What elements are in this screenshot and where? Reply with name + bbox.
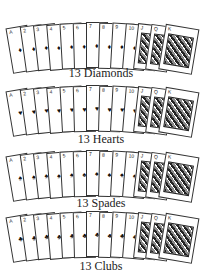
card-rank: K — [168, 215, 172, 220]
face-card-art — [163, 96, 194, 131]
card-rank: 7 — [89, 24, 92, 29]
card-rank: 4 — [49, 26, 52, 31]
card-fan: A ♠2 ♠3 ♠4 ♠♠5 ♠♠6 ♠♠♠7 ♠♠♠8 ♠♠♠♠9 ♠♠♠♠1… — [0, 148, 202, 200]
card-rank: Q — [154, 215, 159, 220]
card-rank: 10 — [128, 214, 134, 219]
face-card-art — [163, 222, 194, 257]
card-fan: A ♣2 ♣3 ♣4 ♣♣5 ♣♣6 ♣♣♣7 ♣♣♣8 ♣♣♣♣9 ♣♣♣♣1… — [0, 209, 202, 261]
card-rank: A — [9, 218, 13, 223]
card-rank: 2 — [23, 28, 26, 33]
card-rank: J — [140, 154, 143, 159]
card-rank: 3 — [36, 216, 39, 221]
card-rank: 9 — [115, 25, 118, 30]
card-rank: 10 — [128, 25, 134, 30]
card-rank: 4 — [49, 215, 52, 220]
card-rank: 2 — [23, 217, 26, 222]
card-rank: J — [140, 215, 143, 220]
card-rank: 7 — [89, 213, 92, 218]
card-rank: 5 — [63, 26, 66, 31]
playing-card: K — [158, 212, 199, 263]
face-card-art — [163, 161, 194, 196]
card-rank: 6 — [76, 153, 79, 158]
card-rank: 4 — [49, 89, 52, 94]
suit-label: 13 Hearts — [0, 132, 202, 147]
card-rank: 7 — [89, 152, 92, 157]
card-rank: 3 — [36, 155, 39, 160]
card-rank: 9 — [115, 214, 118, 219]
card-rank: 5 — [63, 215, 66, 220]
card-rank: 9 — [115, 88, 118, 93]
card-rank: 9 — [115, 153, 118, 158]
playing-card: K — [158, 86, 199, 137]
playing-card: K — [158, 151, 199, 202]
card-rank: 6 — [76, 25, 79, 30]
card-rank: K — [168, 154, 172, 159]
card-fan: A ♦2 ♦3 ♦4 ♦♦5 ♦♦6 ♦♦♦7 ♦♦♦8 ♦♦♦♦9 ♦♦♦♦1… — [0, 20, 202, 72]
card-rank: 2 — [23, 156, 26, 161]
card-rank: 3 — [36, 90, 39, 95]
card-rank: 2 — [23, 91, 26, 96]
card-rank: 8 — [102, 152, 105, 157]
card-rank: A — [9, 157, 13, 162]
card-rank: J — [140, 26, 143, 31]
card-rank: 8 — [102, 87, 105, 92]
card-rank: A — [9, 92, 13, 97]
card-rank: Q — [154, 26, 159, 31]
card-rank: Q — [154, 89, 159, 94]
card-rank: 10 — [128, 153, 134, 158]
card-rank: 8 — [102, 213, 105, 218]
suit-label: 13 Diamonds — [0, 66, 202, 81]
card-rank: 5 — [63, 154, 66, 159]
face-card-art — [163, 33, 194, 68]
card-rank: K — [168, 26, 172, 31]
card-rank: 5 — [63, 89, 66, 94]
card-rank: 8 — [102, 24, 105, 29]
card-rank: K — [168, 89, 172, 94]
card-rank: A — [9, 29, 13, 34]
card-rank: 4 — [49, 154, 52, 159]
card-rank: 6 — [76, 88, 79, 93]
card-rank: 7 — [89, 87, 92, 92]
card-fan: A ♥2 ♥3 ♥4 ♥♥5 ♥♥6 ♥♥♥7 ♥♥♥8 ♥♥♥♥9 ♥♥♥♥1… — [0, 83, 202, 135]
card-rank: Q — [154, 154, 159, 159]
card-rank: 3 — [36, 27, 39, 32]
card-rank: 6 — [76, 214, 79, 219]
card-rank: J — [140, 89, 143, 94]
suit-label: 13 Clubs — [0, 259, 202, 274]
card-rank: 10 — [128, 88, 134, 93]
